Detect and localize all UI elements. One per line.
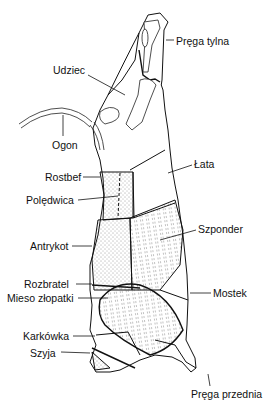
label-prega-tylna: Pręga tylna <box>176 35 229 47</box>
label-mostek: Mostek <box>213 287 247 299</box>
label-rozbratel: Rozbratel <box>24 278 69 290</box>
label-szponder: Szponder <box>198 223 243 235</box>
hind-bones <box>100 20 160 130</box>
label-ogon: Ogon <box>52 139 78 151</box>
label-antrykot: Antrykot <box>30 240 69 252</box>
label-rostbef: Rostbef <box>45 171 81 183</box>
label-mieso-z-lopatki: Mieso złopatki <box>7 292 74 304</box>
label-udziec: Udziec <box>53 64 85 76</box>
label-prega-przednia: Pręga przednia <box>191 388 262 400</box>
label-karkowka: Karkówka <box>23 330 69 342</box>
label-poledwica: Polędwica <box>26 194 74 206</box>
cut-regions <box>92 150 196 370</box>
label-lata: Łata <box>194 158 214 170</box>
label-szyja: Szyja <box>30 347 56 359</box>
